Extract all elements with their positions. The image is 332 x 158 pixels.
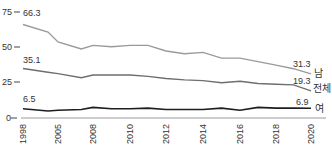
total-start-value: 35.1 <box>23 55 41 65</box>
x-tick-2008: 2008 <box>88 124 98 144</box>
series-lines <box>23 25 311 112</box>
male-start-value: 66.3 <box>23 8 41 18</box>
x-tick-2010: 2010 <box>125 124 135 144</box>
x-tick-2014: 2014 <box>198 124 208 144</box>
male-end-value: 31.3 <box>293 59 311 69</box>
y-tick-25: 25 <box>2 77 12 87</box>
series-label-female: 여 <box>315 103 324 114</box>
series-label-total: 전체 <box>313 83 331 94</box>
female-end-value: 6.9 <box>296 97 309 107</box>
x-axis-labels: 199820052008201020122014201620182020 <box>18 124 316 144</box>
line-chart: 75 50 25 0 19982005200820102012201420162… <box>0 0 332 158</box>
series-names: 남 전체 여 <box>313 68 331 114</box>
y-tick-75: 75 <box>2 7 12 17</box>
total-end-value: 19.3 <box>293 76 311 86</box>
value-labels: 66.3 35.1 6.5 31.3 19.3 6.9 <box>23 8 311 107</box>
y-tick-50: 50 <box>2 42 12 52</box>
y-axis: 75 50 25 0 <box>2 7 20 123</box>
female-start-value: 6.5 <box>23 94 36 104</box>
x-tick-2012: 2012 <box>161 124 171 144</box>
x-tick-2016: 2016 <box>235 124 245 144</box>
x-tick-2020: 2020 <box>306 124 316 144</box>
series-label-male: 남 <box>314 68 323 79</box>
y-tick-0: 0 <box>6 113 11 123</box>
series-line-male <box>23 25 311 74</box>
series-line-total <box>23 69 311 91</box>
series-line-female <box>23 107 311 111</box>
x-tick-1998: 1998 <box>18 124 28 144</box>
x-tick-2018: 2018 <box>271 124 281 144</box>
x-tick-2005: 2005 <box>53 124 63 144</box>
